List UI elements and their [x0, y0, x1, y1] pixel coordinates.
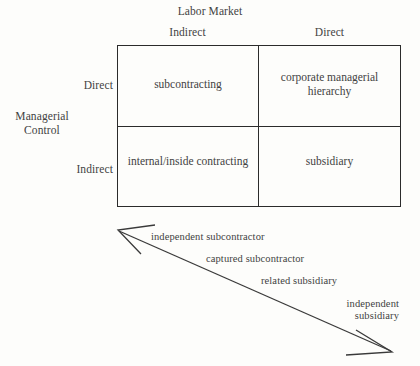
column-header-indirect: Indirect	[117, 26, 258, 40]
row-axis-title: Managerial Control	[0, 110, 84, 137]
spectrum-label-related-subsidiary: related subsidiary	[261, 275, 337, 287]
spectrum-label-independent-subcontractor: independent subcontractor	[151, 231, 265, 243]
spectrum-label-independent-subsidiary: independent subsidiary	[300, 298, 399, 323]
spectrum-label-captured-subcontractor: captured subcontractor	[206, 253, 304, 265]
matrix-cell-subcontracting: subcontracting	[118, 46, 259, 127]
column-axis-title: Labor Market	[0, 5, 420, 19]
matrix-2x2: subcontracting corporate managerial hier…	[117, 45, 401, 207]
matrix-cell-internal-inside-contracting: internal/inside contracting	[118, 127, 259, 206]
matrix-cell-subsidiary: subsidiary	[259, 127, 400, 206]
figure-root: Labor Market Indirect Direct Managerial …	[0, 0, 420, 366]
column-header-direct: Direct	[258, 26, 401, 40]
row-header-direct: Direct	[40, 79, 113, 93]
matrix-cell-corporate-managerial-hierarchy: corporate managerial hierarchy	[259, 46, 400, 127]
row-header-indirect: Indirect	[40, 163, 113, 177]
